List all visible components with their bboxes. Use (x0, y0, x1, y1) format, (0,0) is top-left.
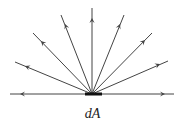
area-element-label: dA (0, 106, 185, 122)
surface-element-bar (85, 93, 102, 96)
arrowhead-icon (154, 64, 160, 69)
rays-group (10, 8, 174, 97)
